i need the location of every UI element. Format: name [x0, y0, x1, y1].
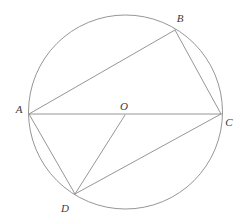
labels-layer: ABCDO: [15, 12, 234, 214]
point-label-d: D: [60, 202, 69, 214]
segment-AD: [29, 114, 75, 194]
circle-layer: [29, 15, 223, 209]
segment-OD: [75, 115, 125, 194]
segments-layer: [29, 30, 221, 194]
point-label-o: O: [120, 100, 128, 112]
geometry-canvas: ABCDO: [0, 0, 246, 224]
segment-AB: [29, 30, 175, 114]
point-label-b: B: [177, 12, 184, 24]
point-label-c: C: [225, 116, 233, 128]
segment-DC: [75, 114, 221, 194]
geometry-diagram: ABCDO: [0, 0, 246, 224]
circumscribed-circle: [29, 15, 223, 209]
point-label-a: A: [15, 103, 23, 115]
